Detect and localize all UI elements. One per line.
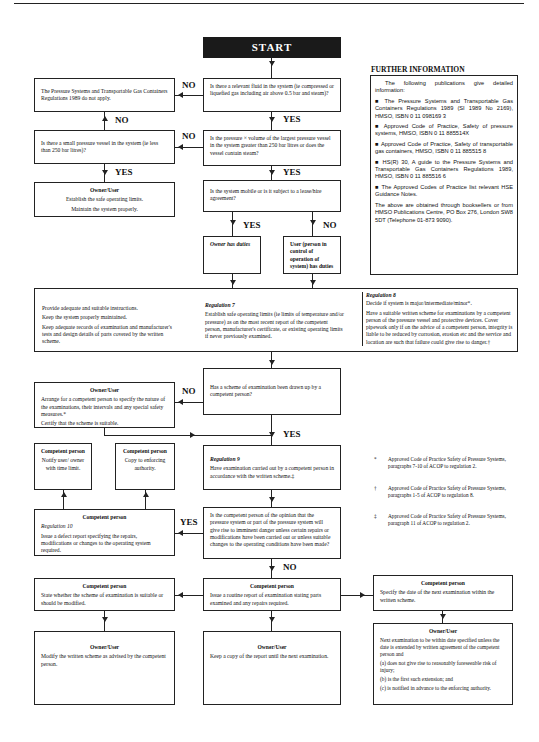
no-label: NO	[182, 131, 196, 141]
competent-person-notify: Competent person Notify user/ owner with…	[34, 443, 92, 490]
general-duties: Provide adequate and suitable instructio…	[42, 305, 182, 345]
footnote: *Approved Code of Practice Safety of Pre…	[374, 456, 519, 470]
competent-person-defect-report: Competent person Regulation 10 Issue a d…	[34, 509, 175, 556]
footnote: †Approved Code of Practice Safety of Pre…	[374, 485, 519, 499]
no-label: NO	[115, 115, 129, 125]
regulations-do-not-apply: The Pressure Systems and Transportable G…	[34, 78, 175, 112]
competent-person-next-date: Competent person Specify the date of the…	[373, 575, 513, 611]
question-imminent-danger: Is the competent person of the opinion t…	[203, 507, 341, 559]
start-node: START	[203, 37, 341, 58]
yes-label: YES	[283, 167, 301, 177]
owner-user-next-examination: Owner/User Next examination to be within…	[373, 623, 513, 705]
yes-label: YES	[115, 167, 133, 177]
yes-label: YES	[283, 114, 301, 124]
no-label: NO	[323, 220, 337, 230]
no-label: NO	[182, 386, 196, 396]
yes-label: YES	[283, 429, 301, 439]
question-small-vessel: Is there a small pressure vessel in the …	[34, 130, 175, 164]
owner-has-duties: Owner has duties	[203, 236, 261, 274]
user-has-duties: User (person in control of operation of …	[283, 236, 341, 274]
further-information-heading: FURTHER INFORMATION	[371, 65, 465, 74]
question-scheme-drawn-up: Has a scheme of examination been drawn u…	[203, 368, 341, 415]
question-pressure-volume: Is the pressure × volume of the largest …	[203, 130, 341, 166]
regulation-8: Regulation 8 Decide if system is major/i…	[362, 292, 516, 346]
question-relevant-fluid: Is there a relevant fluid in the system …	[203, 78, 341, 112]
owner-user-keep-copy: Owner/User Keep a copy of the report unt…	[203, 631, 341, 705]
competent-person-state-scheme: Competent person State whether the schem…	[34, 578, 175, 611]
no-label: NO	[182, 80, 196, 90]
further-information-text: The following publications give detailed…	[375, 80, 513, 227]
owner-user-arrange-scheme: Owner/User Arrange for a competent perso…	[34, 382, 175, 428]
regulation-7: Regulation 7 Establish safe operating li…	[205, 302, 345, 340]
top-rule	[14, 3, 524, 4]
footnote: ‡Approved Code of Practice Safety of Pre…	[374, 513, 519, 527]
competent-person-copy: Competent person Copy to enforcing autho…	[115, 443, 175, 490]
yes-label: YES	[243, 220, 261, 230]
owner-user-modify-scheme: Owner/User Modify the written scheme as …	[34, 631, 175, 705]
regulation-9-examination: Regulation 9 Have examination carried ou…	[203, 445, 341, 490]
question-mobile-or-leased: Is the system mobile or is it subject to…	[203, 180, 341, 212]
yes-label: YES	[180, 517, 198, 527]
no-label: NO	[283, 562, 297, 572]
competent-person-routine-report: Competent person Issue a routine report …	[203, 578, 341, 611]
owner-user-small-vessel: Owner/User Establish the safe operating …	[34, 182, 175, 217]
